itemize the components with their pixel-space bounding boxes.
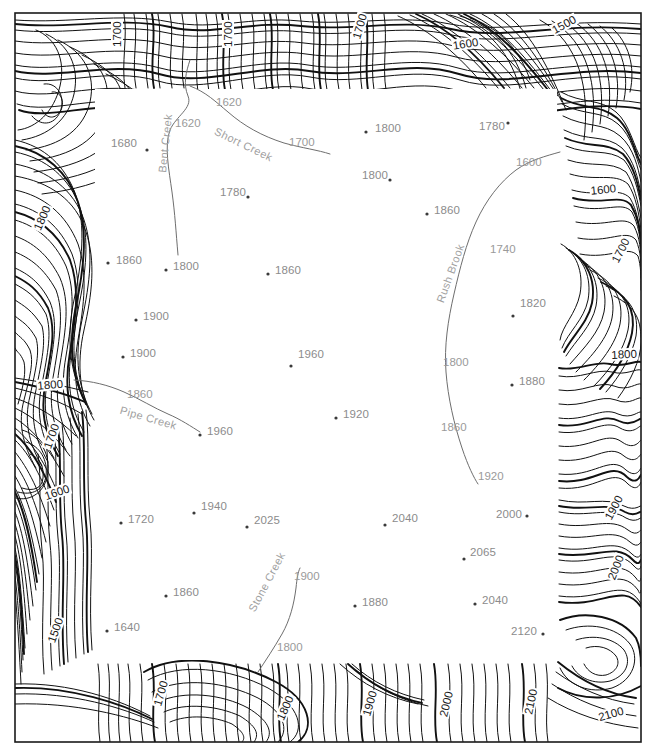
spot-elevation-dot [119, 521, 122, 524]
spot-elevation-dot [192, 511, 195, 514]
spot-elevation-dot [121, 355, 124, 358]
spot-elevation-dot [541, 632, 544, 635]
spot-elevation-dot [245, 525, 248, 528]
spot-elevation-dot [164, 268, 167, 271]
spot-elevation-dot [506, 121, 509, 124]
spot-elevation-dot [525, 514, 528, 517]
spot-elevation-dot [334, 416, 337, 419]
spot-elevation-dot [383, 523, 386, 526]
spot-elevation-dot [246, 195, 249, 198]
contour-map-canvas [0, 0, 652, 756]
spot-elevation-dot [198, 433, 201, 436]
spot-elevation-dot [289, 364, 292, 367]
spot-elevation-dot [145, 148, 148, 151]
study-area-blank [95, 89, 557, 660]
spot-elevation-dot [353, 604, 356, 607]
spot-elevation-dot [511, 314, 514, 317]
spot-elevation-dot [425, 212, 428, 215]
topographic-map: 1700170017001600150016001700180018001800… [0, 0, 652, 756]
spot-elevation-dot [106, 261, 109, 264]
spot-elevation-dot [510, 383, 513, 386]
spot-elevation-dot [164, 594, 167, 597]
spot-elevation-dot [473, 602, 476, 605]
spot-elevation-dot [266, 272, 269, 275]
spot-elevation-dot [364, 130, 367, 133]
spot-elevation-dot [105, 629, 108, 632]
spot-elevation-dot [134, 318, 137, 321]
spot-elevation-dot [388, 178, 391, 181]
spot-elevation-dot [462, 557, 465, 560]
